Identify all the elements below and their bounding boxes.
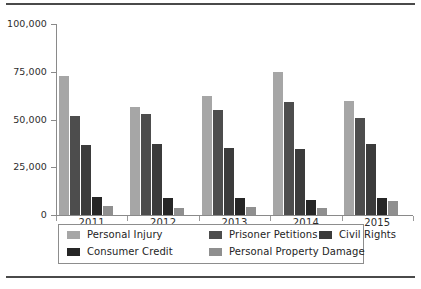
legend-item[interactable]: Personal Injury [67, 230, 163, 240]
bar [366, 144, 376, 215]
x-tick-mark [56, 216, 57, 221]
bottom-divider-rule [6, 276, 415, 278]
bar [295, 149, 305, 215]
bar-chart: 025,00050,00075,000100,000 2011201220132… [0, 12, 421, 212]
bar [306, 200, 316, 215]
bar-group [344, 24, 398, 215]
bar [152, 144, 162, 215]
bar [235, 198, 245, 215]
bar [377, 198, 387, 215]
bar-group [130, 24, 184, 215]
top-divider-rule [6, 3, 415, 5]
legend-label: Personal Injury [87, 230, 163, 240]
x-tick-mark [342, 216, 343, 221]
bar [59, 76, 69, 215]
legend-label: Personal Property Damage [229, 247, 365, 257]
bar [388, 201, 398, 215]
y-tick-label: 0 [41, 210, 47, 220]
bar [141, 114, 151, 215]
x-tick-label: 2015 [364, 218, 390, 228]
x-tick-mark [413, 216, 414, 221]
y-tick-label: 25,000 [13, 163, 47, 173]
bar [246, 207, 256, 215]
bar-group [202, 24, 256, 215]
chart-legend: Personal InjuryPrisoner PetitionsCivil R… [58, 224, 364, 264]
legend-item[interactable]: Prisoner Petitions [209, 230, 318, 240]
legend-label: Consumer Credit [87, 247, 173, 257]
legend-item[interactable]: Civil Rights [319, 230, 396, 240]
chart-page: 025,00050,00075,000100,000 2011201220132… [0, 0, 421, 289]
bar [273, 72, 283, 215]
bar [70, 116, 80, 215]
legend-label: Prisoner Petitions [229, 230, 318, 240]
bar [92, 197, 102, 215]
legend-swatch-icon [319, 231, 332, 239]
bar [130, 107, 140, 215]
bar [317, 208, 327, 215]
y-tick-label: 100,000 [7, 19, 47, 29]
bar [284, 102, 294, 215]
y-tick-label: 50,000 [13, 115, 47, 125]
x-tick-mark [127, 216, 128, 221]
legend-label: Civil Rights [339, 230, 396, 240]
legend-swatch-icon [67, 231, 80, 239]
x-axis-line [56, 215, 413, 216]
legend-swatch-icon [209, 231, 222, 239]
bar [103, 206, 113, 215]
bar [202, 96, 212, 215]
legend-swatch-icon [209, 248, 222, 256]
y-tick-label: 75,000 [13, 67, 47, 77]
bar [355, 118, 365, 215]
bar [174, 208, 184, 215]
bar-group [59, 24, 113, 215]
legend-item[interactable]: Consumer Credit [67, 247, 173, 257]
bar [213, 110, 223, 215]
x-tick-mark [199, 216, 200, 221]
legend-item[interactable]: Personal Property Damage [209, 247, 365, 257]
bar-group [273, 24, 327, 215]
legend-swatch-icon [67, 248, 80, 256]
plot-area [56, 24, 413, 215]
bar [224, 148, 234, 215]
bar [81, 145, 91, 215]
bar [163, 198, 173, 215]
bar [344, 101, 354, 215]
x-tick-mark [270, 216, 271, 221]
